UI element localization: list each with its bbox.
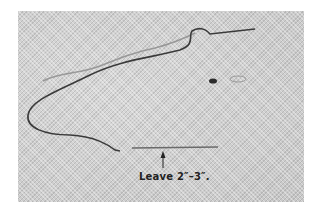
up-arrow-icon: [161, 151, 166, 158]
main-thread: [28, 29, 255, 151]
caption-label: Leave 2″–3″.: [139, 171, 210, 182]
needle-shadow: [230, 76, 246, 82]
thread-tail: [132, 147, 218, 148]
faint-thread-strand: [43, 33, 195, 81]
needle-eye-icon: [209, 78, 217, 83]
